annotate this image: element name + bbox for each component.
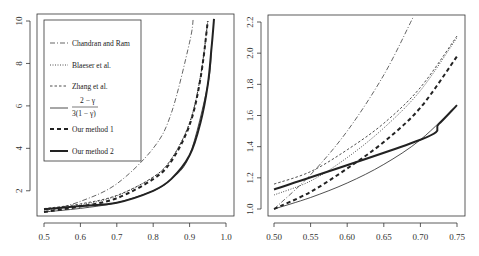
x-tick-label: 0.6 xyxy=(75,232,87,242)
y-tick-label: 10 xyxy=(14,16,24,26)
legend-label-blaeser: Blaeser et al. xyxy=(72,61,111,70)
plot-frame xyxy=(268,15,465,216)
x-tick-label: 0.5 xyxy=(38,232,50,242)
x-tick-label: 0.60 xyxy=(339,232,355,242)
legend-label-zhang: Zhang et al. xyxy=(72,82,108,91)
series-line xyxy=(274,36,457,184)
y-tick-label: 4 xyxy=(14,146,24,151)
x-axis: 0.50.60.70.80.91.0 xyxy=(38,223,232,242)
x-axis: 0.500.550.600.650.700.75 xyxy=(266,223,465,242)
series-group xyxy=(274,17,457,209)
legend: Chandran and Ram Blaeser et al. Zhang et… xyxy=(44,20,141,161)
y-axis: 246810 xyxy=(14,16,30,193)
y-tick-label: 1.8 xyxy=(245,78,255,90)
x-tick-label: 0.50 xyxy=(266,232,282,242)
right-plot-panel: 0.500.550.600.650.700.751.01.21.41.61.82… xyxy=(245,15,465,242)
y-tick-label: 2.0 xyxy=(245,47,255,59)
legend-formula-denominator: 3(1 − γ) xyxy=(72,109,96,118)
y-tick-label: 1.2 xyxy=(245,172,255,183)
legend-formula-numerator: 2 − γ xyxy=(80,96,96,105)
legend-label-method1: Our method 1 xyxy=(72,125,114,134)
x-tick-label: 0.8 xyxy=(148,232,160,242)
legend-label-method2: Our method 2 xyxy=(72,147,114,156)
legend-label-chandran: Chandran and Ram xyxy=(72,39,130,48)
y-tick-label: 1.6 xyxy=(245,109,255,121)
x-tick-label: 0.7 xyxy=(111,232,123,242)
x-tick-label: 0.70 xyxy=(413,232,429,242)
y-tick-label: 1.0 xyxy=(245,203,255,215)
x-tick-label: 0.75 xyxy=(449,232,465,242)
series-line xyxy=(274,38,457,195)
x-tick-label: 0.9 xyxy=(184,232,196,242)
series-line xyxy=(274,105,457,189)
x-tick-label: 0.55 xyxy=(303,232,319,242)
y-tick-label: 6 xyxy=(14,103,24,108)
y-tick-label: 2.2 xyxy=(245,16,255,27)
y-axis: 1.01.21.41.61.82.02.2 xyxy=(245,16,261,214)
y-tick-label: 8 xyxy=(14,61,24,66)
series-line xyxy=(274,56,457,209)
y-tick-label: 1.4 xyxy=(245,141,255,153)
x-tick-label: 1.0 xyxy=(220,232,232,242)
x-tick-label: 0.65 xyxy=(376,232,392,242)
y-tick-label: 2 xyxy=(14,189,24,194)
series-line xyxy=(274,17,413,209)
chart-canvas: 0.50.60.70.80.91.0246810 0.500.550.600.6… xyxy=(0,0,479,256)
